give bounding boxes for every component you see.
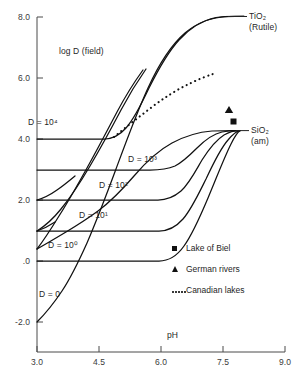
x-axis-ticks	[37, 346, 285, 352]
triangle-marker-icon	[172, 264, 186, 274]
series-label-sio2-text: SiO₂	[251, 125, 269, 135]
x-tick-label-4-5: 4.5	[86, 357, 112, 367]
dotted-line-marker-icon	[172, 285, 186, 295]
series-sublabel-sio2: (am)	[251, 136, 269, 146]
legend-item-german-rivers: German rivers	[172, 264, 240, 274]
y-axis-label: log D (field)	[59, 46, 104, 56]
curve-d-1e2	[37, 131, 240, 200]
legend-label-lake-of-biel: Lake of Biel	[186, 243, 230, 253]
series-label-tio2-text: TiO₂	[249, 11, 266, 21]
curve-label-d-1e0: D = 10⁰	[48, 240, 78, 250]
legend-label-german-rivers: German rivers	[186, 264, 240, 274]
y-tick-label-neg2: -2.0	[4, 317, 30, 327]
y-tick-label-4: 4.0	[4, 134, 30, 144]
series-label-sio2: SiO₂	[251, 125, 269, 135]
y-tick-label-2: 2.0	[4, 195, 30, 205]
curve-label-d-1e2: D = 10²	[99, 180, 128, 190]
curve-branch-b	[37, 69, 146, 231]
curve-canadian-lakes	[114, 74, 213, 137]
y-tick-label-0: .0	[4, 256, 30, 266]
datapoint-lake-of-biel	[231, 119, 237, 125]
square-marker-icon	[172, 243, 186, 253]
legend-label-canadian-lakes: Canadian lakes	[186, 285, 245, 295]
x-axis-label: pH	[167, 330, 178, 340]
curve-label-d-1e3: D = 10³	[128, 154, 157, 164]
figure-caption	[6, 373, 292, 381]
x-tick-label-7-5: 7.5	[210, 357, 236, 367]
figure-container: 8.0 6.0 4.0 2.0 .0 -2.0 3.0 4.5 6.0 7.5 …	[0, 0, 292, 381]
curve-connector-1e2	[37, 176, 75, 200]
x-tick-label-3: 3.0	[24, 357, 50, 367]
datapoint-german-rivers	[225, 106, 233, 113]
plot-canvas	[0, 0, 292, 381]
x-tick-label-9: 9.0	[272, 357, 292, 367]
legend-item-lake-of-biel: Lake of Biel	[172, 243, 230, 253]
curve-d-1e3	[37, 131, 240, 170]
curve-label-d-1e4: D = 10⁴	[28, 117, 58, 127]
series-label-tio2: TiO₂	[249, 11, 266, 21]
curve-d-1e1	[37, 131, 240, 231]
curve-label-d-0: D = 0	[39, 289, 60, 299]
x-tick-label-6: 6.0	[148, 357, 174, 367]
y-tick-label-8: 8.0	[4, 12, 30, 22]
series-sublabel-tio2: (Rutile)	[249, 22, 277, 32]
curve-label-d-1e1: D = 10¹	[79, 210, 108, 220]
y-tick-label-6: 6.0	[4, 73, 30, 83]
legend-item-canadian-lakes: Canadian lakes	[172, 285, 245, 295]
